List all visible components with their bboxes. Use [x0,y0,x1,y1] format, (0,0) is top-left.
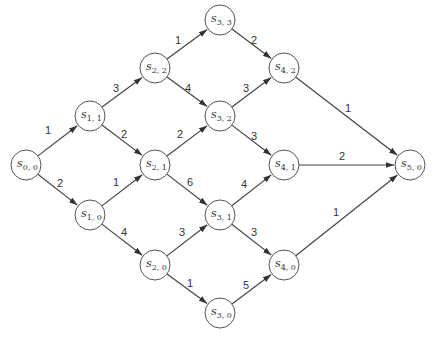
edge-weight-label: 2 [177,128,183,140]
edge-s20-s31 [167,225,207,256]
edge-weight-label: 2 [121,128,127,140]
node-s00: s0, 0 [11,150,41,180]
edge-weight-label: 1 [345,102,351,114]
node-s32: s3, 2 [205,101,235,131]
edge-weight-label: 2 [339,150,345,162]
edge-s22-s33 [167,30,207,60]
edge-weight-label: 4 [121,226,127,238]
nodes-layer: s0, 0s1, 1s1, 0s2, 2s2, 1s2, 0s3, 3s3, 2… [11,5,425,328]
arrow-icon [296,77,397,155]
arrow-icon [167,225,207,256]
node-s31: s3, 1 [205,200,235,230]
stage-graph-diagram: 123214142631233435121 s0, 0s1, 1s1, 0s2,… [0,0,432,337]
edge-s30-s40 [232,275,271,304]
arrow-icon [232,78,271,107]
node-s22: s2, 2 [140,53,170,83]
edge-s42-s50 [296,77,397,155]
edge-weight-label: 5 [243,279,249,291]
edge-weight-label: 1 [175,34,181,46]
edge-s00-s11 [38,126,77,156]
edge-weight-label: 2 [57,177,63,189]
edge-weight-label: 1 [333,206,339,218]
node-s40: s4, 0 [269,250,299,280]
edge-weight-label: 3 [179,226,185,238]
node-s50: s5, 0 [395,150,425,180]
node-s42: s4, 2 [269,53,299,83]
node-s30: s3, 0 [205,298,235,328]
arrow-icon [38,126,77,156]
edges-layer [38,29,398,304]
edge-weight-label: 3 [243,82,249,94]
arrow-icon [167,126,207,156]
edge-s21-s32 [167,126,207,156]
edge-weight-label: 1 [45,124,51,136]
edge-s32-s42 [232,78,271,107]
arrow-icon [232,175,272,206]
edge-weight-label: 1 [113,176,119,188]
node-s20: s2, 0 [140,250,170,280]
node-s10: s1, 0 [75,200,105,230]
arrow-icon [232,275,271,304]
edge-s40-s50 [296,175,398,256]
node-s11: s1, 1 [75,101,105,131]
arrow-icon [296,175,398,256]
edge-s31-s41 [232,175,272,206]
arrow-icon [102,175,142,206]
edge-weight-label: 6 [187,176,193,188]
node-s33: s3, 3 [205,5,235,35]
node-s21: s2, 1 [140,150,170,180]
edge-s10-s21 [102,175,142,206]
edge-s11-s22 [102,78,142,108]
arrow-icon [102,78,142,108]
edge-weight-label: 2 [251,34,257,46]
edge-weight-label: 4 [241,178,247,190]
edge-weights-layer: 123214142631233435121 [45,34,351,291]
edge-weight-label: 1 [187,277,193,289]
node-s41: s4, 1 [269,150,299,180]
edge-weight-label: 3 [113,82,119,94]
edge-weight-label: 3 [251,130,257,142]
edge-weight-label: 3 [251,226,257,238]
edge-weight-label: 4 [185,82,191,94]
arrow-icon [167,30,207,60]
